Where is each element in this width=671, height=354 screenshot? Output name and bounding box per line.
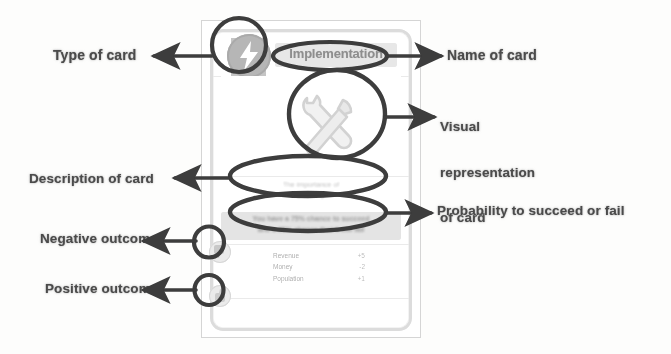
label-type-of-card: Type of card — [53, 48, 136, 64]
stat-label: Population — [273, 273, 304, 284]
label-negative-outcome: Negative outcome — [40, 231, 158, 246]
card-description: The importance of planning — [221, 180, 401, 200]
stat-label: Money — [273, 261, 293, 272]
label-visual-representation: Visual representation of card — [440, 89, 535, 255]
card-title: Implementation — [275, 46, 397, 61]
probability-line-1: You have a 75% chance to succeed — [221, 214, 401, 225]
diagram-canvas: Implementation The importance of — [0, 0, 671, 354]
thumbs-down-icon[interactable] — [209, 241, 231, 263]
stat-value: +1 — [358, 273, 365, 284]
divider — [213, 298, 409, 299]
wrench-and-hammer-icon — [279, 80, 371, 172]
card-description-line-2: planning — [221, 190, 401, 200]
stat-row: Population +1 — [259, 273, 379, 284]
stat-row: Revenue +5 — [259, 250, 379, 261]
probability-line-2: and a 25% chance that it will fail — [221, 225, 401, 236]
label-visual-line-1: Visual — [440, 119, 535, 134]
stat-label: Revenue — [273, 250, 299, 261]
thumbs-up-icon[interactable] — [209, 285, 231, 307]
lightning-bolt-icon — [227, 34, 271, 78]
card-description-line-1: The importance of — [221, 180, 401, 190]
label-description-of-card: Description of card — [29, 171, 154, 186]
game-card[interactable]: Implementation The importance of — [210, 29, 412, 331]
stat-value: -2 — [359, 261, 365, 272]
stat-value: +5 — [358, 250, 365, 261]
stat-row: Money -2 — [259, 261, 379, 272]
label-positive-outcome: Positive outcome — [45, 281, 158, 296]
label-probability: Probability to succeed or fail — [437, 203, 625, 218]
divider — [213, 176, 409, 177]
card-frame: Implementation The importance of — [201, 20, 421, 338]
card-stats: Revenue +5 Money -2 Population +1 — [259, 250, 379, 284]
label-name-of-card: Name of card — [447, 48, 537, 64]
divider — [213, 244, 409, 245]
label-visual-line-2: representation — [440, 165, 535, 180]
probability-text: You have a 75% chance to succeed and a 2… — [221, 214, 401, 235]
